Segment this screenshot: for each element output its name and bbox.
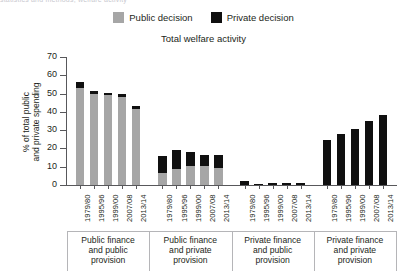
plot-area <box>67 57 396 185</box>
bar-segment-private-decision <box>337 134 346 185</box>
x-axis-category-label: 1979/80 <box>83 195 92 222</box>
bar-segment-private-decision <box>200 155 209 166</box>
bar-segment-private-decision <box>90 91 99 94</box>
y-axis-tick-label: 30 <box>0 124 57 134</box>
x-axis-tick <box>287 185 288 189</box>
x-axis-tick <box>218 185 219 189</box>
x-axis-category-label: 1979/80 <box>330 195 339 222</box>
x-axis-tick <box>122 185 123 189</box>
bar <box>132 106 141 185</box>
clipped-header-text: statistics and methods; welfare activity <box>0 0 407 7</box>
x-axis-category-label: 2013/14 <box>139 195 148 222</box>
chart-title: Total welfare activity <box>0 33 407 44</box>
group-label: Private financeand privateprovision <box>314 235 396 265</box>
legend-label-private-decision: Private decision <box>227 12 294 23</box>
chart-legend: Public decision Private decision <box>0 12 407 23</box>
x-axis-category-label: 1995/96 <box>97 195 106 222</box>
bar-segment-private-decision <box>76 82 85 88</box>
y-axis-tick-label: 0 <box>0 179 57 189</box>
group-separator <box>314 231 315 271</box>
y-axis-tick <box>60 130 66 131</box>
y-axis-tick <box>60 112 66 113</box>
x-axis-category-label: 2013/14 <box>304 195 313 222</box>
y-axis-tick-label: 60 <box>0 69 57 79</box>
bar <box>158 156 167 185</box>
bar-segment-private-decision <box>158 156 167 173</box>
x-axis-tick <box>301 185 302 189</box>
bar-segment-private-decision <box>365 121 374 185</box>
x-axis-category-label: 2007/08 <box>290 195 299 222</box>
y-axis-tick <box>60 148 66 149</box>
y-axis-tick-label: 20 <box>0 142 57 152</box>
bar-segment-public-decision <box>76 88 85 185</box>
x-axis-tick <box>136 185 137 189</box>
legend-swatch-public-decision <box>113 12 124 23</box>
x-axis-category-label: 1995/96 <box>262 195 271 222</box>
x-axis-category-label: 1999/00 <box>194 195 203 222</box>
group-separator <box>149 231 150 271</box>
legend-item-public-decision: Public decision <box>113 12 192 23</box>
group-label-line: Private finance <box>232 235 314 245</box>
bar-segment-public-decision <box>132 109 141 185</box>
y-axis-tick <box>60 57 66 58</box>
bar-segment-public-decision <box>214 168 223 185</box>
x-axis-tick <box>94 185 95 189</box>
bar <box>337 134 346 185</box>
bar-segment-private-decision <box>186 152 195 166</box>
legend-item-private-decision: Private decision <box>211 12 294 23</box>
bar <box>214 155 223 185</box>
x-axis-tick <box>259 185 260 189</box>
group-separator <box>67 231 68 271</box>
x-axis-tick <box>327 185 328 189</box>
group-label-line: Public finance <box>67 235 149 245</box>
x-axis-category-label: 1979/80 <box>248 195 257 222</box>
x-axis-category-label: 1979/80 <box>165 195 174 222</box>
group-label: Private financeand publicprovision <box>232 235 314 265</box>
bar-segment-private-decision <box>118 94 127 98</box>
group-label-line: provision <box>149 255 231 265</box>
bar <box>351 129 360 185</box>
group-label-line: Private finance <box>314 235 396 245</box>
legend-swatch-private-decision <box>211 12 222 23</box>
group-label-line: and public <box>67 245 149 255</box>
bar-segment-private-decision <box>351 129 360 185</box>
x-axis-tick <box>80 185 81 189</box>
bar <box>172 150 181 185</box>
bar <box>104 93 113 185</box>
bar-segment-private-decision <box>132 106 141 109</box>
bar <box>379 115 388 185</box>
y-axis-tick <box>60 94 66 95</box>
x-axis-category-label: 1999/00 <box>358 195 367 222</box>
bar-segment-private-decision <box>214 155 223 168</box>
group-label-line: and public <box>232 245 314 255</box>
x-axis-tick <box>204 185 205 189</box>
bar-segment-private-decision <box>379 115 388 185</box>
x-axis-tick <box>355 185 356 189</box>
legend-label-public-decision: Public decision <box>129 12 192 23</box>
bar <box>90 91 99 185</box>
bar-segment-private-decision <box>104 93 113 95</box>
chart-figure: statistics and methods; welfare activity… <box>0 0 407 280</box>
bar <box>365 121 374 185</box>
group-label-line: Public finance <box>149 235 231 245</box>
x-axis-category-label: 1999/00 <box>111 195 120 222</box>
bar <box>323 140 332 185</box>
y-axis-tick <box>60 167 66 168</box>
bar-segment-private-decision <box>323 140 332 185</box>
group-label-top-rule <box>67 231 396 232</box>
y-axis-tick <box>60 75 66 76</box>
bar-segment-public-decision <box>172 169 181 185</box>
group-label-line: and private <box>149 245 231 255</box>
group-label-line: provision <box>314 255 396 265</box>
x-axis-category-label: 2013/14 <box>386 195 395 222</box>
group-label: Public financeand publicprovision <box>67 235 149 265</box>
y-axis-tick-label: 40 <box>0 106 57 116</box>
group-label-line: provision <box>232 255 314 265</box>
y-axis-tick <box>60 185 66 186</box>
y-axis-tick-label: 10 <box>0 161 57 171</box>
bar <box>200 155 209 185</box>
x-axis-tick <box>176 185 177 189</box>
group-label: Public financeand privateprovision <box>149 235 231 265</box>
x-axis-category-label: 2007/08 <box>125 195 134 222</box>
x-axis-tick <box>162 185 163 189</box>
